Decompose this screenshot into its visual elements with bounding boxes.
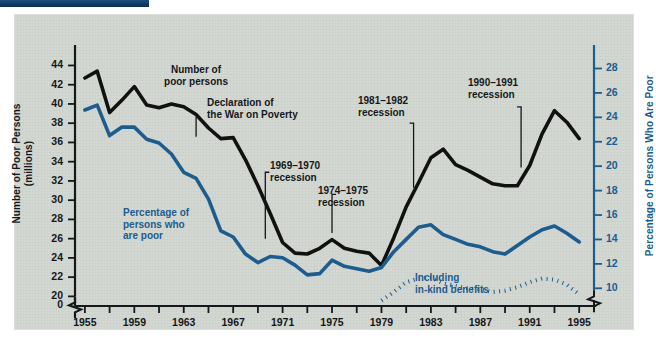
annotation-declaration-war-poverty: Declaration of the War on Poverty bbox=[207, 97, 337, 120]
x-tick-label: 1967 bbox=[207, 316, 259, 328]
leader-recession-1990-1991 bbox=[517, 107, 521, 168]
right-tick-label: 26 bbox=[606, 86, 618, 98]
annotation-recession-1969-1970: 1969–1970 recession bbox=[270, 160, 360, 183]
x-tick-label: 1959 bbox=[108, 316, 160, 328]
x-tick-label: 1991 bbox=[504, 316, 556, 328]
annotation-percentage-persons-poor: Percentage of persons who are poor bbox=[123, 207, 233, 242]
left-tick-label: 38 bbox=[33, 116, 63, 128]
x-tick-label: 1971 bbox=[257, 316, 309, 328]
left-tick-label: 44 bbox=[33, 58, 63, 70]
right-axis-title: Percentage of Persons Who Are Poor bbox=[644, 71, 656, 261]
left-tick-label: 24 bbox=[33, 251, 63, 263]
left-tick-label: 34 bbox=[33, 155, 63, 167]
right-tick-label: 28 bbox=[606, 61, 618, 73]
right-tick-label: 22 bbox=[606, 135, 618, 147]
x-tick-label: 1955 bbox=[59, 316, 111, 328]
left-axis-title: Number of Poor Persons (millions) bbox=[11, 79, 34, 249]
annotation-including-in-kind-benefits: Including in-kind benefits bbox=[415, 272, 535, 295]
x-tick-label: 1979 bbox=[355, 316, 407, 328]
left-tick-label: 40 bbox=[33, 97, 63, 109]
right-tick-label: 20 bbox=[606, 159, 618, 171]
left-tick-label: 42 bbox=[33, 78, 63, 90]
right-tick-label: 12 bbox=[606, 257, 618, 269]
leader-recession-1981-1982 bbox=[410, 123, 414, 187]
right-tick-label: 18 bbox=[606, 184, 618, 196]
left-tick-label: 26 bbox=[33, 232, 63, 244]
x-tick-label: 1987 bbox=[454, 316, 506, 328]
annotation-recession-1990-1991: 1990–1991 recession bbox=[468, 77, 560, 100]
left-tick-label: 22 bbox=[33, 270, 63, 282]
left-tick-label: 28 bbox=[33, 212, 63, 224]
x-tick-label: 1995 bbox=[553, 316, 605, 328]
right-tick-label: 16 bbox=[606, 208, 618, 220]
x-tick-label: 1975 bbox=[306, 316, 358, 328]
x-tick-label: 1963 bbox=[158, 316, 210, 328]
right-tick-label: 24 bbox=[606, 110, 618, 122]
x-tick-label: 1983 bbox=[405, 316, 457, 328]
right-tick-label: 10 bbox=[606, 281, 618, 293]
right-tick-label: 14 bbox=[606, 232, 618, 244]
left-zero-label: 0 bbox=[33, 298, 63, 310]
left-tick-label: 30 bbox=[33, 193, 63, 205]
left-tick-label: 36 bbox=[33, 135, 63, 147]
left-tick-label: 32 bbox=[33, 174, 63, 186]
annotation-recession-1981-1982: 1981–1982 recession bbox=[358, 95, 450, 118]
annotation-number-poor-persons: Number of poor persons bbox=[136, 64, 256, 87]
annotation-recession-1974-1975: 1974–1975 recession bbox=[318, 185, 408, 208]
